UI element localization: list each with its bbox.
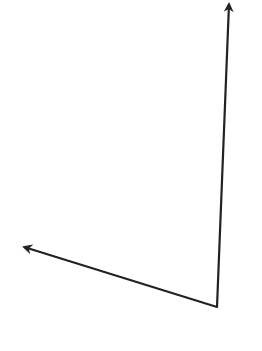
ray-left-arrow	[24, 247, 217, 307]
angle-diagram	[0, 0, 262, 351]
ray-up-arrow	[217, 4, 229, 307]
angle-vertex	[216, 306, 218, 308]
